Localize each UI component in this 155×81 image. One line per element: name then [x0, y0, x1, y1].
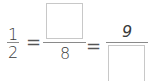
fraction-1-numerator: 1 [7, 27, 19, 43]
fraction-2-denominator: 8 [55, 46, 75, 62]
equals-sign-2: = [86, 37, 101, 55]
fraction-3-bar [106, 42, 148, 43]
fraction-3-denominator-input-box[interactable] [108, 45, 145, 81]
fraction-3-numerator: 9 [117, 24, 137, 40]
fraction-2-numerator-input-box[interactable] [46, 3, 83, 39]
fraction-2-bar [43, 42, 86, 43]
equals-sign-1: = [26, 33, 41, 51]
fraction-1-denominator: 2 [7, 45, 19, 61]
